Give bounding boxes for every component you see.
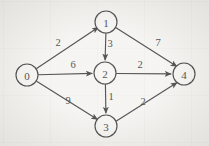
edge-3-to-4 <box>116 83 177 122</box>
node-label-2: 2 <box>102 68 108 80</box>
node-label-0: 0 <box>24 70 30 82</box>
edge-weight-0-2: 6 <box>70 59 75 70</box>
edge-1-to-4 <box>116 28 177 67</box>
edge-weight-1-4: 7 <box>155 37 160 48</box>
node-label-4: 4 <box>181 69 187 81</box>
graph-node-4[interactable]: 4 <box>173 63 195 85</box>
edge-weight-2-3: 1 <box>108 91 113 102</box>
figure-canvas: 2 6 9 3 7 2 1 2 0 1 2 3 <box>0 0 209 146</box>
edge-weight-3-4: 2 <box>140 96 145 107</box>
directed-graph-diagram: 2 6 9 3 7 2 1 2 0 1 2 3 <box>0 0 209 146</box>
node-label-3: 3 <box>103 121 109 133</box>
edge-weight-2-4: 2 <box>137 59 142 70</box>
edge-1-to-2 <box>105 33 106 60</box>
edge-0-to-2 <box>38 73 92 74</box>
edge-weight-0-3: 9 <box>65 95 70 106</box>
edge-2-to-3 <box>105 84 106 113</box>
edge-0-to-1 <box>36 27 98 69</box>
edge-weight-0-1: 2 <box>55 37 60 48</box>
graph-node-0[interactable]: 0 <box>16 64 38 86</box>
node-label-1: 1 <box>103 17 109 29</box>
graph-node-1[interactable]: 1 <box>95 11 117 33</box>
graph-node-2[interactable]: 2 <box>94 62 116 84</box>
graph-node-3[interactable]: 3 <box>95 115 117 137</box>
edge-weight-1-2: 3 <box>107 38 112 49</box>
